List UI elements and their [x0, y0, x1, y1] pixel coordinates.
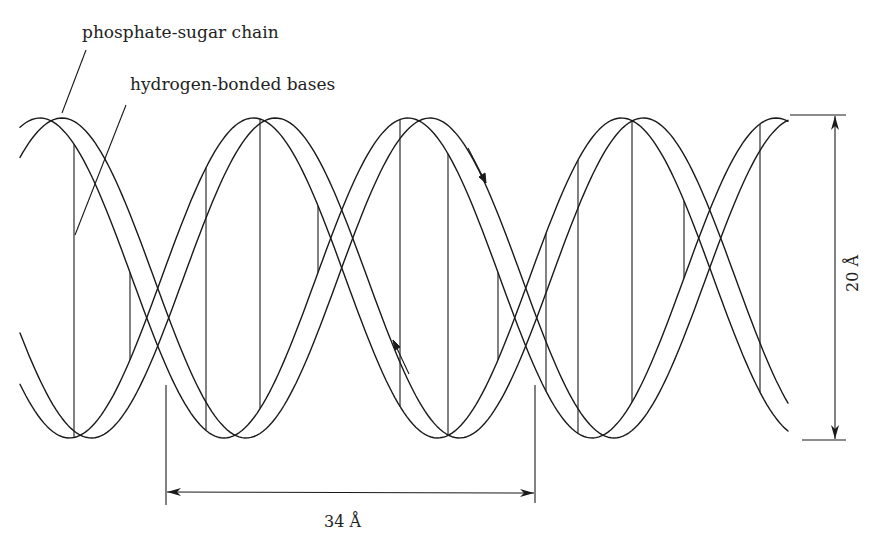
backbone-leader-line: [62, 50, 86, 113]
bases-leader-line: [75, 105, 126, 235]
arrow-up-left-icon: [393, 340, 409, 374]
pitch-dimension: 34 Å: [166, 385, 535, 531]
backbone-label: phosphate-sugar chain: [82, 22, 279, 42]
diameter-label: 20 Å: [842, 255, 862, 292]
dna-helix-diagram: phosphate-sugar chain hydrogen-bonded ba…: [0, 0, 889, 546]
diameter-dimension: 20 Å: [790, 115, 862, 440]
pitch-label: 34 Å: [324, 511, 361, 531]
double-helix: [20, 118, 788, 438]
strand-a-backbone: [20, 118, 788, 438]
arrow-down-right-icon: [468, 148, 486, 183]
bases-label: hydrogen-bonded bases: [130, 74, 335, 94]
strand-b-backbone: [20, 118, 788, 438]
